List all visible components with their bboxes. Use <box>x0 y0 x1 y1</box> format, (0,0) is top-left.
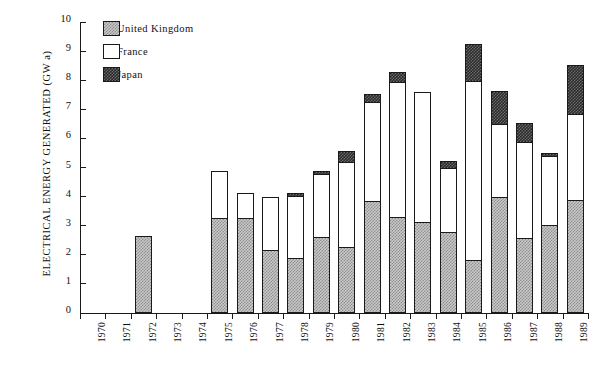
y-tick-mark <box>80 80 86 81</box>
bar-segment-united-kingdom <box>262 250 279 313</box>
bar-segment-france <box>364 102 381 202</box>
y-tick-mark <box>80 283 86 284</box>
bar-segment-japan <box>491 91 508 125</box>
y-tick-label: 7 <box>66 101 71 112</box>
bar-1980 <box>338 152 355 314</box>
y-tick-label: 5 <box>66 160 71 171</box>
x-label-1979: 1979 <box>325 322 335 362</box>
bar-segment-united-kingdom <box>567 200 584 313</box>
bar-segment-japan <box>516 123 533 143</box>
bar-segment-united-kingdom <box>465 260 482 313</box>
bar-segment-united-kingdom <box>364 201 381 313</box>
x-tick <box>486 313 487 319</box>
x-label-1986: 1986 <box>503 322 513 362</box>
bar-1978 <box>287 194 304 313</box>
bar-1979 <box>313 172 330 313</box>
x-label-1984: 1984 <box>452 322 462 362</box>
y-axis-title: ELECTRICAL ENERGY GENERATED (GW a) <box>41 14 52 314</box>
y-tick-label: 0 <box>66 305 71 316</box>
bar-1983 <box>414 93 431 313</box>
y-tick-mark <box>80 22 86 23</box>
bar-segment-france <box>338 162 355 247</box>
bar-segment-united-kingdom <box>287 258 304 313</box>
legend-swatch-france <box>103 44 120 59</box>
bar-1975 <box>211 172 228 313</box>
x-tick <box>385 313 386 319</box>
legend-item-united-kingdom: United Kingdom <box>103 17 193 40</box>
x-tick <box>461 313 462 319</box>
x-tick <box>207 313 208 319</box>
bar-segment-france <box>491 124 508 198</box>
bar-segment-france <box>465 81 482 261</box>
x-label-1982: 1982 <box>402 322 412 362</box>
bar-1987 <box>516 124 533 313</box>
bar-1972 <box>135 237 152 313</box>
bar-segment-united-kingdom <box>414 222 431 313</box>
x-label-1973: 1973 <box>173 322 183 362</box>
x-label-1975: 1975 <box>224 322 234 362</box>
y-tick-mark <box>80 51 86 52</box>
x-label-1976: 1976 <box>249 322 259 362</box>
x-label-1980: 1980 <box>351 322 361 362</box>
y-tick-mark <box>80 225 86 226</box>
x-tick <box>182 313 183 319</box>
x-tick <box>105 313 106 319</box>
bar-1984 <box>440 162 457 313</box>
legend-item-france: France <box>103 40 193 63</box>
bar-segment-france <box>516 142 533 239</box>
x-label-1981: 1981 <box>376 322 386 362</box>
bar-1976 <box>237 194 254 313</box>
x-label-1989: 1989 <box>579 322 589 362</box>
x-tick <box>309 313 310 319</box>
bar-1988 <box>541 154 558 313</box>
y-tick-label: 4 <box>66 189 71 200</box>
bar-segment-france <box>389 82 406 218</box>
legend-label-united-kingdom: United Kingdom <box>117 23 193 34</box>
x-label-1974: 1974 <box>198 322 208 362</box>
bar-segment-united-kingdom <box>338 247 355 313</box>
x-tick <box>563 313 564 319</box>
bar-segment-united-kingdom <box>541 225 558 313</box>
x-label-1983: 1983 <box>427 322 437 362</box>
chart-legend: United Kingdom France Japan <box>103 17 193 86</box>
x-label-1971: 1971 <box>122 322 132 362</box>
bar-segment-united-kingdom <box>313 237 330 313</box>
bar-segment-united-kingdom <box>516 238 533 313</box>
x-tick <box>80 313 81 319</box>
bar-1986 <box>491 92 508 313</box>
bar-segment-japan <box>567 65 584 115</box>
x-label-1987: 1987 <box>529 322 539 362</box>
x-label-1985: 1985 <box>478 322 488 362</box>
legend-item-japan: Japan <box>103 63 193 86</box>
y-tick-label: 1 <box>66 276 71 287</box>
x-tick <box>359 313 360 319</box>
x-label-1970: 1970 <box>97 322 107 362</box>
bar-segment-united-kingdom <box>440 232 457 313</box>
bar-segment-united-kingdom <box>491 197 508 313</box>
x-label-1977: 1977 <box>275 322 285 362</box>
x-tick <box>537 313 538 319</box>
x-tick <box>156 313 157 319</box>
y-tick-mark <box>80 254 86 255</box>
bar-segment-france <box>440 168 457 233</box>
x-tick <box>232 313 233 319</box>
bar-segment-united-kingdom <box>237 218 254 313</box>
bar-segment-united-kingdom <box>389 217 406 313</box>
x-label-1978: 1978 <box>300 322 310 362</box>
x-tick <box>258 313 259 319</box>
x-tick <box>283 313 284 319</box>
bar-chart: ELECTRICAL ENERGY GENERATED (GW a) 01234… <box>0 0 605 369</box>
y-tick-label: 9 <box>66 43 71 54</box>
y-tick-label: 3 <box>66 218 71 229</box>
y-tick-label: 10 <box>61 14 72 25</box>
bar-segment-france <box>567 114 584 201</box>
bar-segment-france <box>211 171 228 219</box>
x-tick <box>436 313 437 319</box>
bar-segment-france <box>313 174 330 238</box>
x-tick <box>512 313 513 319</box>
bar-segment-united-kingdom <box>135 236 152 313</box>
bar-segment-united-kingdom <box>211 218 228 313</box>
legend-label-france: France <box>117 46 148 57</box>
bar-1985 <box>465 45 482 313</box>
x-tick <box>410 313 411 319</box>
